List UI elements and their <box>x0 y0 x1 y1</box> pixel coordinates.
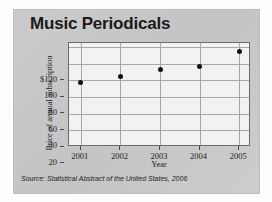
plot-area <box>68 42 250 146</box>
y-axis-tick <box>60 129 64 130</box>
data-point <box>197 64 202 69</box>
gridline-horizontal <box>69 97 249 98</box>
y-axis: Price of annual subscription $1201008060… <box>28 42 64 146</box>
gridline-vertical <box>160 43 161 145</box>
y-axis-label: $120 <box>40 75 57 84</box>
source-note: Source: Statistical Abstract of the Unit… <box>21 175 187 182</box>
x-axis-tick <box>199 146 200 150</box>
y-axis-tick <box>60 96 64 97</box>
x-axis-tick <box>159 146 160 150</box>
y-axis-label: 40 <box>49 141 58 150</box>
data-point <box>78 80 83 85</box>
chart-screenshot: Music Periodicals Price of annual subscr… <box>0 0 272 202</box>
x-axis-tick <box>238 146 239 150</box>
x-axis-title: Year <box>68 159 250 169</box>
data-point <box>158 67 163 72</box>
data-point <box>118 74 123 79</box>
y-axis-tick <box>60 146 64 147</box>
y-axis-label: 20 <box>49 158 58 167</box>
y-axis-tick <box>60 162 64 163</box>
y-axis-label: 60 <box>49 125 58 134</box>
page-title: Music Periodicals <box>30 14 170 34</box>
data-point <box>237 49 242 54</box>
gridline-vertical <box>200 43 201 145</box>
y-axis-tick <box>60 112 64 113</box>
gridline-vertical <box>120 43 121 145</box>
y-axis-label: 100 <box>44 91 57 100</box>
chart-card: Music Periodicals Price of annual subscr… <box>13 9 260 194</box>
gridline-horizontal <box>69 130 249 131</box>
y-axis-tick <box>60 79 64 80</box>
gridline-vertical <box>239 43 240 145</box>
x-axis-tick <box>80 146 81 150</box>
gridline-horizontal <box>69 47 249 48</box>
gridline-horizontal <box>69 64 249 65</box>
gridline-horizontal <box>69 114 249 115</box>
gridline-vertical <box>81 43 82 145</box>
y-axis-label: 80 <box>49 108 58 117</box>
x-axis-tick <box>119 146 120 150</box>
gridline-horizontal <box>69 80 249 81</box>
